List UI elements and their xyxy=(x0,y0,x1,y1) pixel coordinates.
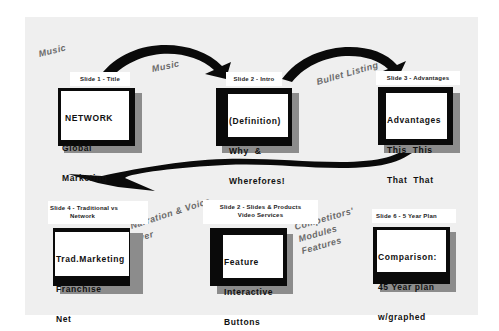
slide-3-label: Slide 3 - Advantages xyxy=(376,71,460,85)
slide-1-line-2: Global xyxy=(62,143,129,153)
slide-4-line-1: Trad.Marketing xyxy=(56,254,129,264)
slide-4-label-line-1: Slide 4 - Traditional vs xyxy=(50,204,148,212)
slide-5-label-line-2: Video Services xyxy=(203,211,318,219)
slide-6-line-1: Comparison: xyxy=(378,252,446,262)
slide-5-line-2: Interactive xyxy=(224,287,283,297)
slide-5-line-1: Feature xyxy=(224,257,283,267)
slide-1-line-1: NETWORK xyxy=(62,113,129,123)
slide-2-content: (Definition) Why & Wherefores! xyxy=(228,94,288,137)
slide-5-line-3: Buttons xyxy=(224,317,283,327)
slide-2-line-2: Why & xyxy=(229,146,288,156)
slide-4-label-line-2: Network xyxy=(50,212,148,220)
slide-3-line-1: Advantages xyxy=(387,115,447,125)
slide-3-content: Advantages This This That That xyxy=(386,93,447,139)
slide-3-line-3: That That xyxy=(387,175,447,185)
slide-4-content: Trad.Marketing Franchise Net xyxy=(55,232,129,276)
slide-2-label: Slide 2 - Intro xyxy=(226,72,282,86)
slide-1-label: Slide 1 - Title xyxy=(70,72,130,86)
slide-3-line-2: This This xyxy=(387,145,447,155)
slide-6-line-2: 45 Year plan xyxy=(378,282,446,292)
slide-4-line-2: Franchise xyxy=(56,284,129,294)
slide-4-line-3: Net xyxy=(56,314,129,324)
slide-1-content: NETWORK Global Marketing xyxy=(61,91,129,140)
slide-6-content: Comparison: 45 Year plan w/graphed xyxy=(377,230,446,272)
slide-2-line-1: (Definition) xyxy=(229,116,288,126)
slide-1-line-3: Marketing xyxy=(62,173,129,183)
slide-2-line-3: Wherefores! xyxy=(229,176,288,186)
slide-6-line-3: w/graphed xyxy=(378,312,446,322)
slide-4-label: Slide 4 - Traditional vs Network xyxy=(48,201,148,224)
slide-6-label: Slide 6 - 5 Year Plan xyxy=(372,209,456,223)
slide-5-content: Feature Interactive Buttons xyxy=(223,235,283,278)
